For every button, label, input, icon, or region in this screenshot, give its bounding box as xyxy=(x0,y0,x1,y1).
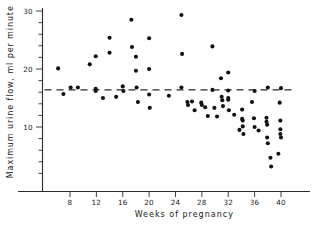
data-point xyxy=(114,95,118,99)
data-point xyxy=(264,116,268,120)
data-point xyxy=(130,45,134,49)
x-tick-label: 12 xyxy=(92,198,102,207)
data-point xyxy=(269,164,273,168)
x-tick-label: 36 xyxy=(250,198,260,207)
data-point xyxy=(250,100,254,104)
data-point xyxy=(237,128,241,132)
data-point xyxy=(241,132,245,136)
data-point xyxy=(94,89,98,93)
data-point xyxy=(278,101,282,105)
scatter-plot-figure: 102030 81216202428323640 Weeks of pregna… xyxy=(0,0,315,226)
x-tick-label: 24 xyxy=(171,198,181,207)
data-point xyxy=(179,86,183,90)
data-point xyxy=(276,152,280,156)
data-point xyxy=(219,76,223,80)
x-tick-label: 32 xyxy=(223,198,233,207)
data-point xyxy=(108,51,112,55)
x-tick-label: 16 xyxy=(118,198,128,207)
data-point xyxy=(226,88,230,92)
x-tick-label: 28 xyxy=(197,198,207,207)
x-tick-label: 40 xyxy=(276,198,286,207)
data-point xyxy=(227,108,231,112)
x-axis-ticks xyxy=(70,192,281,198)
data-point xyxy=(240,108,244,112)
data-point xyxy=(226,98,230,102)
data-point xyxy=(200,103,204,107)
x-axis-title: Weeks of pregnancy xyxy=(135,210,234,219)
data-point xyxy=(135,86,139,90)
data-point xyxy=(108,36,112,40)
data-point xyxy=(203,105,207,109)
data-point xyxy=(265,135,269,139)
y-tick-label: 10 xyxy=(23,123,33,132)
data-point xyxy=(101,96,105,100)
data-point xyxy=(88,62,92,66)
data-point xyxy=(220,98,224,102)
data-point xyxy=(279,135,283,139)
data-point xyxy=(226,70,230,74)
data-point xyxy=(147,67,151,71)
y-axis-title: Maximum urine flow, ml per minute xyxy=(6,5,15,178)
data-point xyxy=(136,100,140,104)
data-point xyxy=(69,86,73,90)
data-point xyxy=(241,124,245,128)
data-point xyxy=(210,88,214,92)
data-point xyxy=(265,123,269,127)
data-point xyxy=(190,99,194,103)
y-axis-ticks xyxy=(36,11,43,173)
data-point xyxy=(253,89,257,93)
data-point xyxy=(210,44,214,48)
data-point xyxy=(180,52,184,56)
data-point xyxy=(193,108,197,112)
chart-canvas: 102030 81216202428323640 Weeks of pregna… xyxy=(0,0,315,226)
data-point xyxy=(212,106,216,110)
data-point xyxy=(278,119,282,123)
axes-group xyxy=(18,8,310,192)
data-point xyxy=(76,86,80,90)
data-point xyxy=(253,125,257,129)
x-tick-label: 8 xyxy=(68,198,73,207)
data-point xyxy=(129,18,133,22)
data-point xyxy=(206,114,210,118)
data-point xyxy=(61,92,65,96)
data-point xyxy=(268,156,272,160)
data-point xyxy=(252,116,256,120)
data-point xyxy=(278,132,282,136)
data-point xyxy=(241,119,245,123)
data-point xyxy=(134,55,138,59)
y-tick-label: 30 xyxy=(23,7,33,16)
data-point xyxy=(266,86,270,90)
x-tick-label: 20 xyxy=(144,198,154,207)
data-point xyxy=(221,104,225,108)
data-point xyxy=(147,92,151,96)
data-point xyxy=(56,66,60,70)
data-point xyxy=(148,106,152,110)
data-point xyxy=(121,89,125,93)
data-point xyxy=(279,86,283,90)
data-point xyxy=(220,95,224,99)
data-point xyxy=(179,13,183,17)
data-point xyxy=(232,113,236,117)
y-axis-tick-labels: 102030 xyxy=(23,7,33,132)
x-axis-tick-labels: 81216202428323640 xyxy=(68,198,286,207)
data-point xyxy=(278,127,282,131)
data-points-group xyxy=(56,13,283,168)
y-tick-label: 20 xyxy=(23,65,33,74)
data-point xyxy=(167,94,171,98)
data-point xyxy=(266,141,270,145)
data-point xyxy=(94,54,98,58)
data-point xyxy=(121,84,125,88)
data-point xyxy=(134,69,138,73)
data-point xyxy=(215,115,219,119)
data-point xyxy=(186,103,190,107)
data-point xyxy=(257,128,261,132)
data-point xyxy=(147,36,151,40)
